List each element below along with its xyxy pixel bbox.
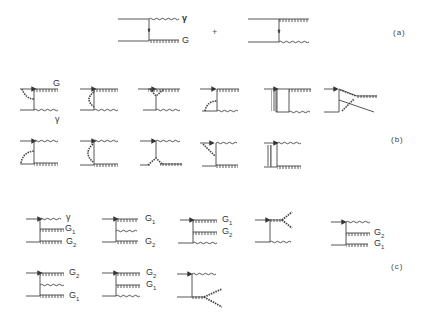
panel-label-c: (c): [391, 262, 403, 271]
diagram-b2: [80, 89, 118, 111]
diagram-a2: [248, 19, 309, 43]
diagram-b9: [140, 140, 182, 166]
diagram-c4: [255, 212, 292, 243]
label-c7-g2: G2: [146, 268, 156, 279]
label-c6-g1: G1: [69, 291, 79, 302]
label-c2-g1: G1: [145, 214, 155, 225]
label-b-gluon: G: [53, 79, 60, 88]
diagram-b10: [200, 142, 238, 168]
diagram-c1: [26, 218, 64, 244]
diagram-b6: [324, 89, 377, 112]
diagram-b4: [200, 89, 239, 112]
label-b-photon: γ: [55, 115, 60, 124]
diagram-c2: [102, 219, 138, 244]
diagram-b11: [264, 142, 301, 169]
diagram-b5: [264, 89, 311, 113]
label-c1-g1: G1: [65, 224, 75, 235]
panel-label-b: (b): [391, 135, 404, 144]
diagram-c5: [331, 221, 370, 247]
label-c3-g2: G2: [222, 227, 232, 238]
plus-operator: +: [212, 27, 217, 37]
label-c7-g1: G1: [146, 280, 156, 291]
label-c6-g2: G2: [69, 268, 79, 279]
diagram-b3: [138, 89, 180, 111]
diagram-b1: [20, 89, 58, 111]
diagram-b8: [80, 140, 118, 167]
diagram-c3: [178, 220, 217, 244]
label-c3-g1: G1: [222, 215, 232, 226]
label-a-gluon: G: [182, 36, 189, 45]
diagram-c6: [26, 273, 64, 298]
diagram-c7: [102, 273, 140, 297]
label-c1-g2: G2: [66, 237, 76, 248]
label-a-photon: γ: [182, 14, 187, 23]
panel-label-a: (a): [393, 28, 406, 37]
diagram-b7: [20, 140, 58, 166]
diagram-c8: [177, 273, 222, 307]
label-c5-g1: G1: [374, 239, 384, 250]
feynman-diagrams-canvas: [0, 0, 428, 317]
label-c1-photon: γ: [66, 213, 71, 222]
diagram-a1: [118, 18, 179, 43]
label-c2-g2: G2: [145, 237, 155, 248]
